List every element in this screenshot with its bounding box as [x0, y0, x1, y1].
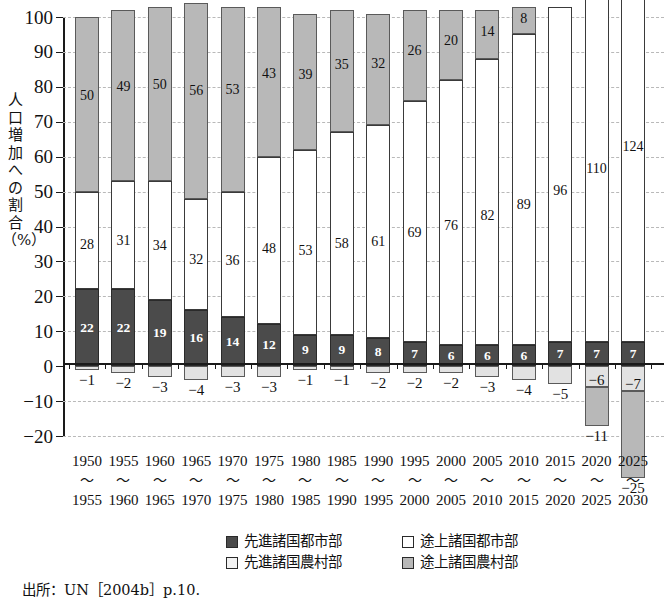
- legend-item-ldc-urban[interactable]: 途上諸国都市部: [402, 534, 518, 549]
- x-axis-tick: [469, 363, 470, 369]
- period-end: 1960: [108, 492, 138, 508]
- bar-segment-developed-rural: [75, 366, 99, 369]
- legend-label: 先進諸国都市部: [244, 534, 342, 549]
- y-axis-tick: [56, 87, 63, 88]
- legend-row: 先進諸国農村部途上諸国農村部: [226, 552, 586, 573]
- bar-segment-developing-urban: [293, 150, 317, 335]
- x-axis-category-label: 1970〜1975: [213, 452, 253, 510]
- bar-value-developing-rural: 20: [439, 34, 463, 48]
- bar-value-developing-urban: 76: [439, 219, 463, 233]
- bar-value-developed-urban: 7: [403, 347, 427, 361]
- y-axis-tick: [56, 52, 63, 53]
- bar-segment-developed-rural: [111, 366, 135, 373]
- bar-segment-developed-rural: [148, 366, 172, 376]
- bar-segment-developing-urban: [366, 125, 390, 338]
- bar-value-developed-urban: 6: [512, 349, 536, 363]
- y-axis-tick-label: 50: [9, 182, 53, 201]
- bar-value-developed-rural: −1: [69, 373, 105, 388]
- bar-segment-developing-rural: [111, 10, 135, 181]
- bar-value-developing-urban: 58: [330, 237, 354, 251]
- bar-segment-developing-urban: [330, 132, 354, 335]
- bar-value-developing-rural: 39: [293, 68, 317, 82]
- bar-segment-developing-rural: [148, 7, 172, 182]
- bar-value-developing-urban: 48: [257, 242, 281, 256]
- bar-value-developed-rural: −6: [579, 373, 615, 388]
- period-end: 1990: [327, 492, 357, 508]
- period-end: 2015: [509, 492, 539, 508]
- y-axis-tick: [56, 157, 63, 158]
- period-range-wave-icon: 〜: [176, 471, 216, 491]
- bar-value-developing-urban: 53: [293, 244, 317, 258]
- bar-segment-developed-rural: [366, 366, 390, 373]
- bar-segment-developing-urban: [548, 7, 572, 342]
- period-range-wave-icon: 〜: [213, 471, 253, 491]
- bar-segment-developed-rural: [548, 366, 572, 383]
- bar-value-developing-urban: 34: [148, 239, 172, 253]
- x-axis-tick: [506, 363, 507, 369]
- bar-value-developed-rural: −4: [506, 383, 542, 398]
- bar-value-developing-urban: 31: [111, 234, 135, 248]
- x-axis-tick: [142, 363, 143, 369]
- legend-item-ldc-rural[interactable]: 途上諸国農村部: [402, 555, 518, 570]
- bar-segment-developed-rural: [475, 366, 499, 376]
- period-range-wave-icon: 〜: [249, 471, 289, 491]
- period-end: 1955: [72, 492, 102, 508]
- period-end: 2030: [618, 492, 648, 508]
- y-axis-tick: [56, 401, 63, 402]
- period-start: 2005: [472, 453, 502, 469]
- period-range-wave-icon: 〜: [322, 471, 362, 491]
- period-start: 1980: [290, 453, 320, 469]
- legend-swatch-icon: [226, 557, 238, 569]
- bar-value-developing-rural: 32: [366, 57, 390, 71]
- x-axis-category-label: 1960〜1965: [140, 452, 180, 510]
- x-axis-tick: [178, 363, 179, 369]
- bar-value-developed-rural: −3: [469, 380, 505, 395]
- legend-swatch-icon: [402, 536, 414, 548]
- period-range-wave-icon: 〜: [285, 471, 325, 491]
- bar-segment-developing-rural: [257, 7, 281, 157]
- bar-value-developed-rural: −5: [542, 387, 578, 402]
- x-axis-tick: [287, 363, 288, 369]
- bar-value-developing-rural: 56: [184, 84, 208, 98]
- period-end: 1995: [363, 492, 393, 508]
- y-axis-tick-label: 70: [9, 112, 53, 131]
- x-axis-category-label: 2015〜2020: [540, 452, 580, 510]
- period-start: 1995: [400, 453, 430, 469]
- bar-value-developed-urban: 7: [585, 347, 609, 361]
- legend-item-dev-urban[interactable]: 先進諸国都市部: [226, 534, 402, 549]
- bar-segment-developed-rural: [330, 366, 354, 369]
- bar-value-developed-urban: 8: [366, 345, 390, 359]
- bar-segment-developed-rural: [512, 366, 536, 380]
- bar-segment-developing-rural: [585, 387, 609, 425]
- bar-segment-developed-rural: [257, 366, 281, 376]
- x-axis-category-label: 2005〜2010: [467, 452, 507, 510]
- bar-value-developed-urban: 22: [111, 321, 135, 335]
- bar-value-developed-urban: 6: [439, 349, 463, 363]
- bar-value-developed-urban: 22: [75, 321, 99, 335]
- bar-segment-developing-rural: [184, 3, 208, 199]
- period-range-wave-icon: 〜: [613, 471, 653, 491]
- x-axis-tick: [69, 363, 70, 369]
- x-axis-category-label: 1955〜1960: [103, 452, 143, 510]
- legend-item-dev-rural[interactable]: 先進諸国農村部: [226, 555, 402, 570]
- bar-value-developed-rural: −7: [615, 377, 651, 392]
- bar-segment-developed-rural: [403, 366, 427, 373]
- x-axis-category-label: 1980〜1985: [285, 452, 325, 510]
- x-axis-category-label: 2025〜2030: [613, 452, 653, 510]
- y-axis-tick: [56, 366, 63, 367]
- bar-value-developed-urban: 14: [221, 335, 245, 349]
- bar-value-developing-rural: 43: [257, 67, 281, 81]
- period-start: 1965: [181, 453, 211, 469]
- bar-value-developing-rural: 26: [403, 44, 427, 58]
- x-axis-tick: [215, 363, 216, 369]
- bar-segment-developing-urban: [439, 80, 463, 345]
- period-start: 1970: [218, 453, 248, 469]
- legend-label: 先進諸国農村部: [244, 555, 342, 570]
- bar-value-developed-rural: −2: [105, 376, 141, 391]
- period-range-wave-icon: 〜: [504, 471, 544, 491]
- period-end: 1965: [145, 492, 175, 508]
- period-end: 1980: [254, 492, 284, 508]
- x-axis-tick: [542, 363, 543, 369]
- bar-value-developed-urban: 6: [475, 349, 499, 363]
